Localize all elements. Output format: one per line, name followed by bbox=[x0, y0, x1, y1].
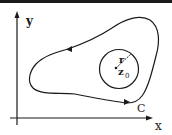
radius-label: r bbox=[119, 54, 125, 65]
center-label: z bbox=[118, 66, 124, 77]
contour-arrow-bottom-icon bbox=[124, 99, 130, 105]
y-axis bbox=[15, 11, 20, 125]
contour-label: C bbox=[137, 102, 145, 115]
x-axis-arrow-icon bbox=[146, 116, 153, 121]
top-border bbox=[0, 0, 172, 3]
contour-arrow-top-icon bbox=[66, 46, 72, 52]
y-axis-label: y bbox=[25, 14, 34, 28]
contour-diagram: y x C r z 0 bbox=[0, 0, 172, 135]
y-axis-arrow-icon bbox=[15, 11, 20, 18]
center-point bbox=[115, 67, 118, 70]
contour-curve bbox=[29, 17, 158, 103]
x-axis-label: x bbox=[155, 119, 162, 133]
x-axis bbox=[10, 116, 153, 121]
center-subscript: 0 bbox=[125, 72, 129, 80]
